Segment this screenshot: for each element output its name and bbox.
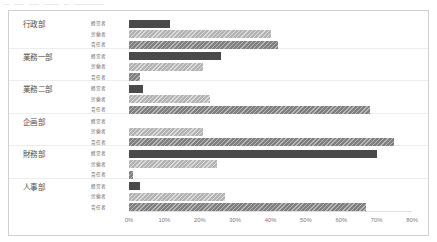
series-label: 労働者 xyxy=(91,127,127,136)
series-label: 経営者 xyxy=(91,52,127,61)
bar[interactable] xyxy=(129,171,133,179)
bar[interactable] xyxy=(129,85,143,93)
bar-group: 業務二部経営者労働者責任者 xyxy=(9,81,428,114)
x-axis-line xyxy=(129,211,412,212)
bar-row: 労働者 xyxy=(9,126,428,137)
x-tick-label: 30% xyxy=(229,216,241,224)
bar-group: 業務一部経営者労働者責任者 xyxy=(9,49,428,82)
x-tick-label: 80% xyxy=(406,216,418,224)
series-label: 経営者 xyxy=(91,84,127,93)
bar-row: 労働者 xyxy=(9,61,428,72)
bar-row: 経営者 xyxy=(9,83,428,94)
bar[interactable] xyxy=(129,63,203,71)
bar[interactable] xyxy=(129,95,210,103)
header-fragment: —————— xyxy=(74,1,104,8)
cut-off-header-strip: ——————————————— xyxy=(0,0,437,9)
bar[interactable] xyxy=(129,182,140,190)
header-fragment: —— xyxy=(29,1,39,8)
x-tick-label: 40% xyxy=(265,216,277,224)
header-fragment: — xyxy=(4,1,9,8)
bar[interactable] xyxy=(129,73,140,81)
bar[interactable] xyxy=(129,106,370,114)
header-fragment: ——— xyxy=(44,1,59,8)
plot-area: 行政部経営者労働者責任者業務一部経営者労働者責任者業務二部経営者労働者責任者企画… xyxy=(9,11,428,235)
bar[interactable] xyxy=(129,30,271,38)
series-label: 経営者 xyxy=(91,117,127,126)
bar-row: 労働者 xyxy=(9,191,428,202)
bar-row: 経営者 xyxy=(9,51,428,62)
x-tick-label: 0% xyxy=(125,216,133,224)
chart-frame: 行政部経営者労働者責任者業務一部経営者労働者責任者業務二部経営者労働者責任者企画… xyxy=(8,10,429,236)
bar-row: 経営者 xyxy=(9,181,428,192)
series-label: 経営者 xyxy=(91,182,127,191)
bar[interactable] xyxy=(129,128,203,136)
bar-group: 人事部経営者労働者責任者 xyxy=(9,179,428,212)
bar-group: 企画部経営者労働者責任者 xyxy=(9,114,428,147)
bar[interactable] xyxy=(129,52,221,60)
x-tick-label: 60% xyxy=(335,216,347,224)
bar-group: 財務部経営者労働者責任者 xyxy=(9,146,428,179)
series-label: 労働者 xyxy=(91,62,127,71)
header-fragment: — xyxy=(64,1,69,8)
bar-row: 経営者 xyxy=(9,116,428,127)
bar-group: 行政部経営者労働者責任者 xyxy=(9,16,428,49)
bar[interactable] xyxy=(129,203,366,211)
header-fragment: —— xyxy=(14,1,24,8)
bar-row: 経営者 xyxy=(9,148,428,159)
x-tick-label: 50% xyxy=(300,216,312,224)
x-axis: 0%10%20%30%40%50%60%70%80% xyxy=(9,211,428,235)
bar[interactable] xyxy=(129,20,170,28)
bar[interactable] xyxy=(129,150,377,158)
x-tick-label: 70% xyxy=(371,216,383,224)
bar-row: 経営者 xyxy=(9,18,428,29)
bar-row: 労働者 xyxy=(9,94,428,105)
bar-row: 労働者 xyxy=(9,159,428,170)
series-label: 労働者 xyxy=(91,192,127,201)
x-tick-label: 10% xyxy=(159,216,171,224)
bar[interactable] xyxy=(129,41,278,49)
bar[interactable] xyxy=(129,160,217,168)
series-label: 経営者 xyxy=(91,149,127,158)
series-label: 労働者 xyxy=(91,95,127,104)
bar[interactable] xyxy=(129,193,225,201)
series-label: 労働者 xyxy=(91,30,127,39)
series-label: 労働者 xyxy=(91,160,127,169)
bar-row: 労働者 xyxy=(9,29,428,40)
series-label: 経営者 xyxy=(91,19,127,28)
bar[interactable] xyxy=(129,138,394,146)
x-tick-label: 20% xyxy=(194,216,206,224)
